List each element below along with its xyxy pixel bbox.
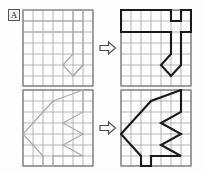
transform-arrow-bottom	[99, 120, 117, 136]
grid-svg-bottom-left	[22, 89, 94, 167]
arrow-right-icon	[99, 120, 117, 136]
grid-svg-top-right	[120, 9, 192, 87]
figure-root: A	[0, 0, 205, 172]
grid-panel-top-left[interactable]	[22, 9, 94, 87]
panel-label-a: A	[8, 9, 20, 21]
transform-arrow-top	[99, 40, 117, 56]
arrow-right-icon	[99, 40, 117, 56]
grid-panel-bottom-left[interactable]	[22, 89, 94, 167]
grid-panel-top-right[interactable]	[120, 9, 192, 87]
grid-svg-bottom-right	[120, 89, 192, 167]
grid-panel-bottom-right[interactable]	[120, 89, 192, 167]
grid-svg-top-left	[22, 9, 94, 87]
